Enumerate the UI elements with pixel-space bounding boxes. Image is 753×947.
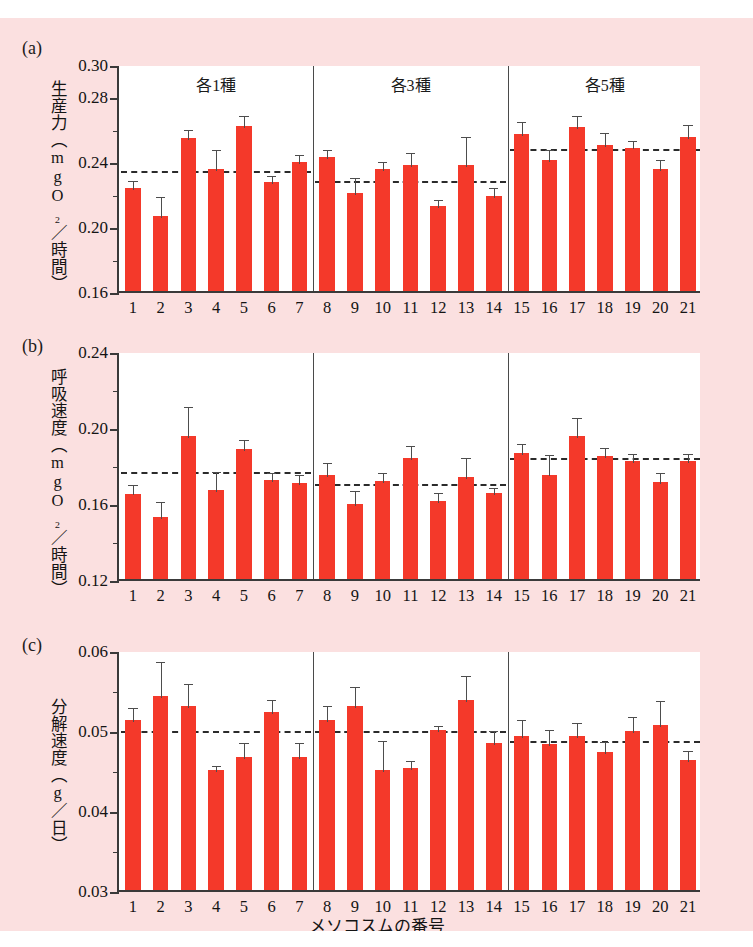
bar: [625, 148, 641, 291]
error-bar-stem: [549, 730, 550, 747]
error-bar-cap: [683, 454, 692, 455]
y-tick-major: [110, 812, 119, 814]
error-bar-stem: [411, 153, 412, 167]
error-bar-stem: [216, 472, 217, 492]
error-bar-cap: [378, 162, 387, 163]
x-tick-label: 2: [157, 298, 165, 318]
y-tick-minor: [113, 692, 119, 693]
y-tick-minor: [113, 131, 119, 132]
error-bar-cap: [323, 150, 332, 151]
error-bar-cap: [128, 181, 137, 182]
y-tick-label: 0.05: [78, 722, 108, 742]
error-bar-stem: [383, 741, 384, 772]
error-bar-cap: [572, 723, 581, 724]
bar: [486, 743, 502, 890]
error-bar-cap: [683, 751, 692, 752]
error-bar-stem: [188, 407, 189, 437]
error-bar-stem: [272, 700, 273, 714]
error-bar-cap: [128, 708, 137, 709]
x-tick-label: 5: [240, 298, 248, 318]
bar: [181, 138, 197, 291]
error-bar-stem: [383, 162, 384, 171]
error-bar-cap: [656, 473, 665, 474]
y-tick-major: [110, 293, 119, 295]
error-bar-cap: [628, 454, 637, 455]
y-tick-label: 0.28: [78, 88, 108, 108]
x-tick-label: 19: [624, 586, 641, 606]
bar: [153, 696, 169, 890]
y-tick-minor: [113, 543, 119, 544]
group-label: 各5種: [585, 72, 625, 96]
error-bar-cap: [628, 717, 637, 718]
bar: [542, 744, 558, 890]
bar: [292, 483, 308, 579]
panel-c-letter: (c): [22, 635, 42, 656]
error-bar-stem: [272, 176, 273, 184]
x-tick-label: 2: [157, 586, 165, 606]
error-bar-cap: [184, 684, 193, 685]
bar: [236, 757, 252, 890]
error-bar-stem: [660, 701, 661, 727]
bar: [625, 461, 641, 579]
bar: [264, 480, 280, 579]
bar: [153, 216, 169, 291]
bar: [181, 706, 197, 890]
error-bar-stem: [188, 130, 189, 140]
error-bar-stem: [577, 723, 578, 737]
error-bar-stem: [522, 720, 523, 738]
bar: [292, 757, 308, 890]
error-bar-stem: [577, 116, 578, 129]
error-bar-stem: [355, 178, 356, 195]
x-tick-label: 9: [351, 586, 359, 606]
x-tick-label: 7: [295, 586, 303, 606]
y-tick-label: 0.03: [78, 882, 108, 902]
x-tick-label: 12: [430, 586, 447, 606]
x-tick-label: 11: [403, 298, 419, 318]
x-tick-label: 13: [458, 298, 475, 318]
x-tick-label: 3: [184, 298, 192, 318]
y-tick-minor: [113, 391, 119, 392]
x-tick-label: 12: [430, 298, 447, 318]
error-bar-cap: [628, 141, 637, 142]
error-bar-stem: [633, 454, 634, 464]
bar: [264, 182, 280, 291]
error-bar-cap: [572, 418, 581, 419]
bar: [569, 736, 585, 890]
bar: [375, 770, 391, 890]
x-tick-label: 20: [652, 586, 669, 606]
bar: [403, 768, 419, 890]
error-bar-cap: [295, 155, 304, 156]
y-tick-label: 0.20: [78, 218, 108, 238]
x-tick-label: 3: [184, 586, 192, 606]
bar: [597, 752, 613, 890]
error-bar-cap: [489, 731, 498, 732]
y-tick-label: 0.12: [78, 571, 108, 591]
error-bar-stem: [327, 706, 328, 723]
y-tick-major: [110, 353, 119, 355]
error-bar-cap: [184, 130, 193, 131]
bar: [430, 206, 446, 291]
error-bar-cap: [323, 706, 332, 707]
x-tick-label: 10: [374, 298, 391, 318]
y-tick-major: [110, 652, 119, 654]
error-bar-cap: [406, 761, 415, 762]
error-bar-cap: [184, 407, 193, 408]
error-bar-cap: [461, 458, 470, 459]
error-bar-cap: [545, 730, 554, 731]
group-divider: [508, 66, 509, 291]
error-bar-stem: [633, 141, 634, 149]
x-tick-label: 13: [458, 586, 475, 606]
error-bar-cap: [517, 720, 526, 721]
y-tick-minor: [113, 196, 119, 197]
x-tick-label: 16: [541, 586, 558, 606]
error-bar-cap: [350, 178, 359, 179]
bar: [347, 193, 363, 291]
bar: [653, 482, 669, 579]
y-tick-major: [110, 732, 119, 734]
error-bar-cap: [156, 197, 165, 198]
error-bar-stem: [355, 687, 356, 708]
error-bar-cap: [434, 726, 443, 727]
bar: [375, 169, 391, 291]
x-axis-title: メソコスムの番号: [0, 912, 753, 937]
bar: [458, 477, 474, 579]
